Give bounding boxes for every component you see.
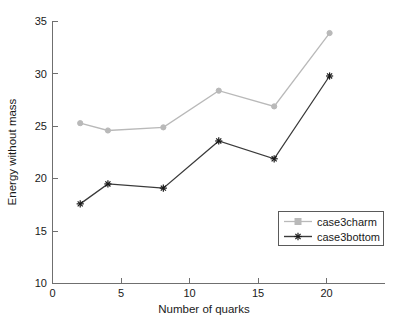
data-point-marker	[104, 180, 111, 187]
series-case3charm	[78, 30, 333, 133]
y-tick-label-20: 20	[35, 172, 47, 184]
legend[interactable]: case3charm case3bottom	[279, 212, 384, 246]
legend-marker-asterisk-icon	[294, 233, 301, 240]
x-tick-label-0: 0	[49, 287, 55, 299]
data-point-marker	[160, 185, 167, 192]
legend-label-case3charm: case3charm	[317, 216, 377, 228]
data-point-marker	[161, 125, 166, 130]
x-tick-label-15: 15	[252, 287, 264, 299]
x-axis-ticks	[53, 278, 327, 284]
series-line-case3charm	[80, 33, 329, 130]
data-point-marker	[77, 200, 84, 207]
legend-label-case3bottom: case3bottom	[317, 231, 380, 243]
data-point-marker	[105, 128, 110, 133]
y-tick-label-30: 30	[35, 68, 47, 80]
series-line-case3bottom	[80, 76, 329, 204]
data-point-marker	[272, 104, 277, 109]
y-axis-ticks	[53, 22, 59, 284]
y-tick-label-35: 35	[35, 15, 47, 27]
y-tick-label-15: 15	[35, 225, 47, 237]
line-chart: 10 15 20 25 30 35 0 5 10 15 20 Number of…	[0, 0, 394, 331]
series-case3bottom	[77, 72, 334, 207]
data-point-marker	[271, 155, 278, 162]
y-axis-title: Energy without mass	[6, 98, 18, 205]
x-axis-title: Number of quarks	[158, 303, 250, 315]
y-tick-label-10: 10	[35, 277, 47, 289]
x-tick-label-20: 20	[320, 287, 332, 299]
chart-figure: 10 15 20 25 30 35 0 5 10 15 20 Number of…	[0, 0, 394, 331]
data-point-marker	[215, 137, 222, 144]
legend-marker-circle-icon	[295, 219, 301, 225]
series-layer	[77, 30, 334, 207]
x-tick-label-5: 5	[118, 287, 124, 299]
x-tick-label-10: 10	[183, 287, 195, 299]
data-point-marker	[216, 88, 221, 93]
data-point-marker	[78, 121, 83, 126]
data-point-marker	[327, 30, 332, 35]
y-tick-label-25: 25	[35, 120, 47, 132]
data-point-marker	[326, 72, 333, 79]
